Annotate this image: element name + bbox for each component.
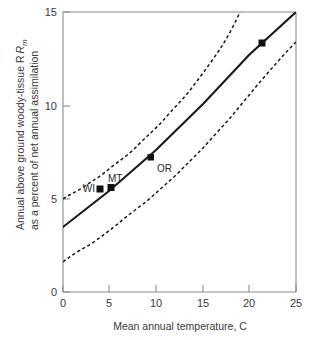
y-tick-label-15: 15 [45, 6, 57, 18]
data-point-marker-wi [97, 186, 104, 193]
data-point-marker-unlabeled [259, 40, 266, 47]
y-tick-label-5: 5 [51, 193, 57, 205]
x-tick-label-15: 15 [197, 297, 209, 309]
x-tick-label-20: 20 [243, 297, 255, 309]
data-point-marker-mt [108, 184, 115, 191]
chart-canvas: 15 10 5 0 0 5 10 15 20 25 [0, 0, 318, 340]
data-point-label-or: OR [157, 163, 172, 174]
y-axis-title-subscript-m: m [20, 39, 29, 46]
data-point-label-mt: MT [108, 173, 122, 184]
x-tick-label-10: 10 [150, 297, 162, 309]
chart-figure: 15 10 5 0 0 5 10 15 20 25 [0, 0, 318, 340]
data-point-marker-or [148, 154, 155, 161]
y-tick-label-10: 10 [45, 100, 57, 112]
y-axis-title-text: Annual above ground woody-tissue R [14, 55, 26, 230]
x-tick-label-0: 0 [60, 297, 66, 309]
data-point-label-wi: WI [83, 183, 95, 194]
x-axis-title: Mean annual temperature, C [113, 320, 247, 332]
x-tick-label-25: 25 [290, 297, 302, 309]
y-axis-title-line-2: as a percent of net annual assimilation [28, 51, 40, 230]
x-tick-label-5: 5 [106, 297, 112, 309]
y-tick-label-0: 0 [51, 286, 57, 298]
